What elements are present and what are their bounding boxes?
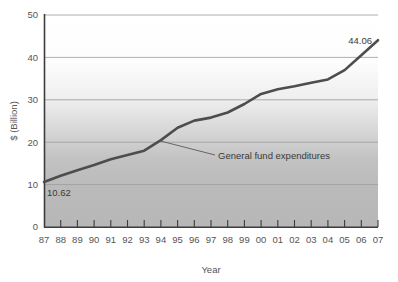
line-chart: 01020304050 8788899091929394959697989900… [0,0,398,282]
x-tick-label: 94 [156,234,167,245]
chart-container: 01020304050 8788899091929394959697989900… [0,0,398,282]
x-tick-label: 92 [122,234,133,245]
y-tick-label: 20 [27,137,38,148]
x-tick-label: 00 [256,234,267,245]
x-tick-label: 01 [273,234,284,245]
x-tick-label: 95 [172,234,183,245]
y-tick-label: 0 [33,221,38,232]
y-tick-label: 30 [27,94,38,105]
data-label-end: 44.06 [348,35,372,46]
x-axis-tick-labels: 8788899091929394959697989900010203040506… [39,234,384,245]
x-tick-label: 91 [106,234,117,245]
x-tick-label: 97 [206,234,217,245]
x-tick-label: 03 [306,234,317,245]
x-tick-label: 04 [323,234,334,245]
x-tick-label: 87 [39,234,50,245]
y-tick-label: 40 [27,52,38,63]
y-axis-title: $ (Billion) [8,101,19,141]
x-tick-label: 06 [356,234,367,245]
y-tick-label: 10 [27,179,38,190]
x-tick-label: 90 [89,234,100,245]
x-tick-label: 88 [55,234,66,245]
x-axis-title: Year [201,264,220,275]
x-tick-label: 07 [373,234,384,245]
series-annotation-label: General fund expenditures [218,150,330,161]
x-tick-label: 05 [339,234,350,245]
data-label-start: 10.62 [47,187,71,198]
x-tick-label: 96 [189,234,200,245]
plot-area-background [44,15,378,227]
x-tick-label: 02 [289,234,300,245]
x-tick-label: 99 [239,234,250,245]
x-tick-label: 98 [222,234,233,245]
y-tick-label: 50 [27,9,38,20]
x-tick-label: 89 [72,234,83,245]
x-tick-label: 93 [139,234,150,245]
